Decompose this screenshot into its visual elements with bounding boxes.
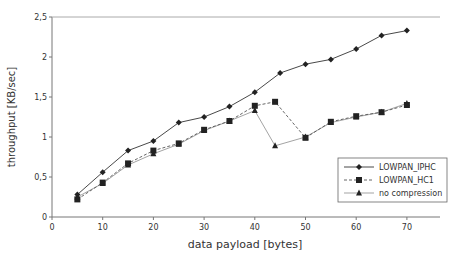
x-axis-label: data payload [bytes] — [188, 238, 302, 251]
legend-label: LOWPAN_IPHC — [379, 163, 436, 172]
chart-canvas: 01020304050607000,511,522,5 LOWPAN_IPHCL… — [0, 0, 458, 261]
x-tick-label: 50 — [300, 223, 310, 232]
diamond-marker — [404, 28, 410, 34]
diamond-marker — [303, 61, 309, 67]
diamond-marker — [328, 56, 334, 62]
diamond-marker — [226, 104, 232, 110]
y-tick-label: 0 — [42, 213, 47, 222]
x-tick-label: 40 — [250, 223, 260, 232]
square-marker — [176, 140, 182, 146]
square-marker — [150, 148, 156, 154]
square-marker — [328, 119, 334, 125]
diamond-marker — [150, 138, 156, 144]
diamond-marker — [201, 114, 207, 120]
square-marker — [272, 99, 278, 105]
square-marker — [252, 103, 258, 109]
legend: LOWPAN_IPHCLOWPAN_HC1no compression — [338, 158, 447, 202]
x-tick-label: 20 — [148, 223, 158, 232]
square-marker — [303, 135, 309, 141]
legend-label: no compression — [379, 189, 442, 198]
x-tick-label: 60 — [351, 223, 361, 232]
y-axis-label: throughput [KB/sec] — [6, 67, 17, 168]
square-marker — [201, 127, 207, 133]
x-tick-label: 30 — [199, 223, 209, 232]
square-marker — [125, 160, 131, 166]
square-marker — [356, 177, 362, 183]
throughput-line-chart: 01020304050607000,511,522,5 LOWPAN_IPHCL… — [0, 0, 458, 261]
diamond-marker — [379, 32, 385, 38]
diamond-marker — [176, 120, 182, 126]
legend-label: LOWPAN_HC1 — [379, 176, 434, 185]
y-tick-label: 2 — [42, 53, 47, 62]
square-marker — [353, 113, 359, 119]
y-tick-label: 1,5 — [34, 93, 47, 102]
y-tick-label: 0,5 — [34, 173, 47, 182]
square-marker — [404, 102, 410, 108]
square-marker — [100, 180, 106, 186]
y-tick-label: 2,5 — [34, 13, 47, 22]
y-tick-label: 1 — [42, 133, 47, 142]
square-marker — [379, 109, 385, 115]
diamond-marker — [353, 46, 359, 52]
x-tick-label: 10 — [98, 223, 108, 232]
square-marker — [226, 118, 232, 124]
x-tick-label: 0 — [49, 223, 54, 232]
x-tick-label: 70 — [402, 223, 412, 232]
